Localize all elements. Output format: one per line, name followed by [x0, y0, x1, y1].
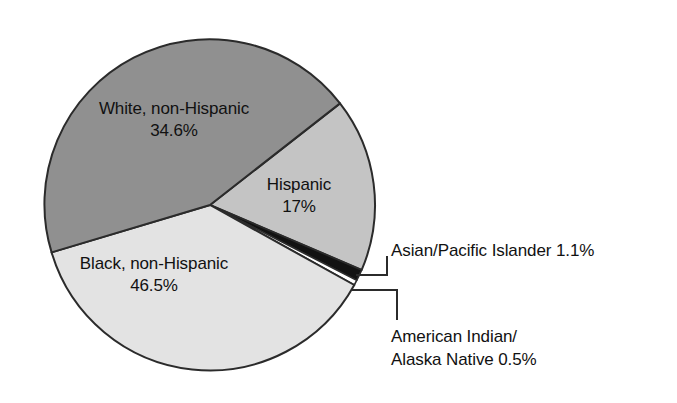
- callout-label-asian-pacific-islander: Asian/Pacific Islander 1.1%: [391, 240, 594, 263]
- leader-line-american-indian-alaska-native: [352, 290, 397, 320]
- slice-label-black-name: Black, non-Hispanic: [80, 254, 228, 273]
- slice-label-white-percent: 34.6%: [84, 120, 264, 142]
- callout-label-american-indian-alaska-native: American Indian/ Alaska Native 0.5%: [391, 326, 537, 372]
- callout-label-american-indian-line2: Alaska Native 0.5%: [391, 349, 537, 372]
- slice-label-white-non-hispanic: White, non-Hispanic 34.6%: [84, 98, 264, 142]
- callout-label-american-indian-line1: American Indian/: [391, 326, 537, 349]
- slice-label-hispanic-percent: 17%: [253, 196, 345, 218]
- slice-label-black-percent: 46.5%: [58, 275, 250, 297]
- slice-label-black-non-hispanic: Black, non-Hispanic 46.5%: [58, 253, 250, 297]
- pie-chart: White, non-Hispanic 34.6% Hispanic 17% B…: [0, 0, 677, 403]
- callout-label-asian-pacific-islander-text: Asian/Pacific Islander 1.1%: [391, 241, 594, 260]
- slice-label-hispanic-name: Hispanic: [267, 175, 331, 194]
- slice-label-white-name: White, non-Hispanic: [99, 99, 249, 118]
- slice-label-hispanic: Hispanic 17%: [253, 174, 345, 218]
